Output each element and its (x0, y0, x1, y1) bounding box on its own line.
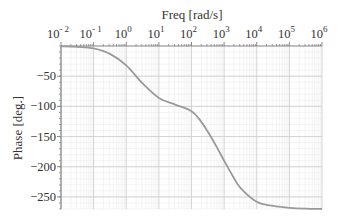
x-tick-label: 100 (115, 24, 133, 41)
phase-bode-chart: 10- 210- 1100101102103104105106 −50−100−… (0, 0, 346, 223)
x-axis-ticks: 10- 210- 1100101102103104105106 (47, 24, 328, 46)
x-axis-title: Freq [rad/s] (161, 7, 222, 22)
y-tick-label: −250 (30, 190, 56, 204)
y-axis-ticks: −50−100−150−200−250 (30, 46, 61, 209)
x-tick-label: 106 (311, 24, 329, 41)
grid-lines (61, 46, 322, 209)
x-tick-label: 10- 2 (47, 24, 69, 41)
y-tick-label: −100 (30, 99, 56, 113)
x-tick-label: 101 (147, 24, 164, 41)
y-axis-title: Phase [deg.] (10, 96, 25, 160)
x-tick-label: 10- 1 (80, 24, 102, 41)
y-tick-label: −200 (30, 160, 56, 174)
y-tick-label: −50 (36, 69, 56, 83)
x-tick-label: 104 (245, 24, 263, 41)
y-tick-label: −150 (30, 130, 56, 144)
x-tick-label: 103 (213, 24, 231, 41)
x-tick-label: 105 (278, 24, 296, 41)
x-tick-label: 102 (180, 24, 197, 41)
